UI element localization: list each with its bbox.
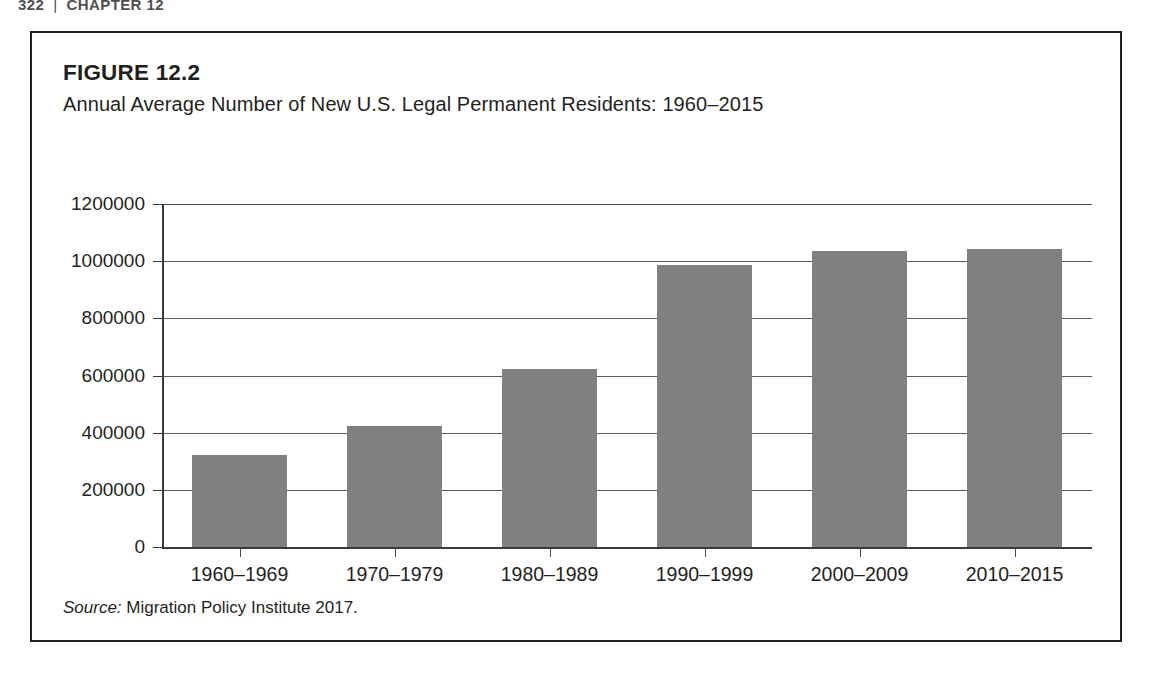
- source-label: Source:: [63, 598, 122, 617]
- y-axis: [162, 204, 164, 549]
- bar: [812, 251, 907, 547]
- y-axis-tickmark: [153, 376, 162, 377]
- y-axis-tick-label: 600000: [32, 365, 145, 387]
- bar: [657, 265, 752, 547]
- bar: [192, 455, 287, 547]
- x-axis-tick-label: 2010–2015: [937, 563, 1092, 586]
- y-axis-tickmark: [153, 318, 162, 319]
- figure-box: FIGURE 12.2 Annual Average Number of New…: [30, 31, 1122, 642]
- running-head-separator: |: [53, 0, 57, 13]
- x-axis-tickmark: [395, 549, 396, 557]
- x-axis-tickmark: [860, 549, 861, 557]
- y-axis-tick-label: 0: [32, 536, 145, 558]
- bar: [967, 249, 1062, 547]
- gridline: [162, 433, 1092, 434]
- y-axis-tick-label: 800000: [32, 307, 145, 329]
- gridline: [162, 261, 1092, 262]
- gridline: [162, 318, 1092, 319]
- x-axis: [162, 547, 1092, 549]
- running-head: 322|CHAPTER 12: [18, 0, 164, 13]
- source-note: Source: Migration Policy Institute 2017.: [63, 598, 358, 618]
- bar-chart-plot: 1200000100000080000060000040000020000001…: [32, 33, 1124, 644]
- x-axis-tickmark: [705, 549, 706, 557]
- gridline: [162, 376, 1092, 377]
- bar: [347, 426, 442, 547]
- x-axis-tick-label: 2000–2009: [782, 563, 937, 586]
- y-axis-tickmark: [153, 204, 162, 205]
- y-axis-tick-label: 1000000: [32, 250, 145, 272]
- x-axis-tick-label: 1970–1979: [317, 563, 472, 586]
- x-axis-tick-label: 1960–1969: [162, 563, 317, 586]
- y-axis-tick-label: 1200000: [32, 193, 145, 215]
- y-axis-tickmark: [153, 261, 162, 262]
- gridline: [162, 204, 1092, 205]
- x-axis-tickmark: [1015, 549, 1016, 557]
- y-axis-tick-label: 400000: [32, 422, 145, 444]
- x-axis-tickmark: [240, 549, 241, 557]
- x-axis-tick-label: 1990–1999: [627, 563, 782, 586]
- bar: [502, 369, 597, 547]
- x-axis-tick-label: 1980–1989: [472, 563, 627, 586]
- y-axis-tick-label: 200000: [32, 479, 145, 501]
- y-axis-tickmark: [153, 490, 162, 491]
- running-head-page-number: 322: [18, 0, 44, 13]
- source-text: Migration Policy Institute 2017.: [122, 598, 358, 617]
- x-axis-tickmark: [550, 549, 551, 557]
- gridline: [162, 490, 1092, 491]
- y-axis-tickmark: [153, 433, 162, 434]
- running-head-chapter: CHAPTER 12: [67, 0, 164, 13]
- y-axis-tickmark: [153, 547, 162, 548]
